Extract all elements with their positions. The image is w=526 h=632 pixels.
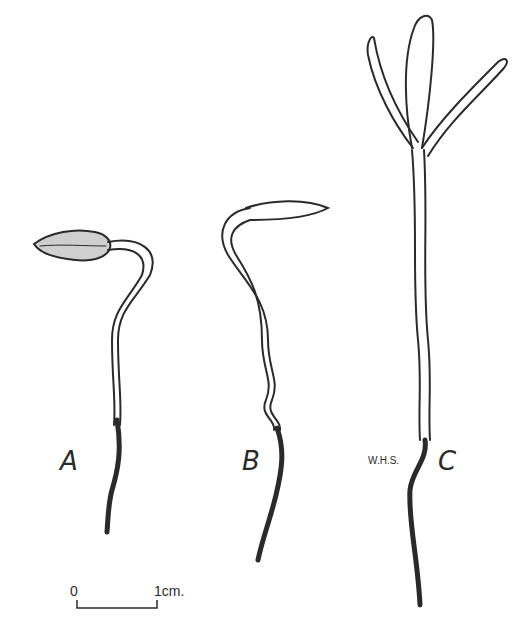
label-b: B [242, 446, 260, 476]
seedling-b [222, 201, 328, 560]
scale-start: 0 [70, 583, 78, 599]
cotyledon-right [422, 59, 507, 156]
cotyledon-left [368, 37, 418, 148]
cotyledon-b [246, 201, 328, 220]
scale-end: 1cm. [154, 583, 184, 599]
seedling-a [34, 231, 153, 533]
seedling-illustration [0, 0, 526, 632]
label-c: C [438, 446, 456, 476]
label-a: A [60, 446, 78, 476]
artist-initials: W.H.S. [368, 455, 399, 466]
scale-bar [77, 600, 157, 608]
seedling-c [368, 16, 507, 605]
